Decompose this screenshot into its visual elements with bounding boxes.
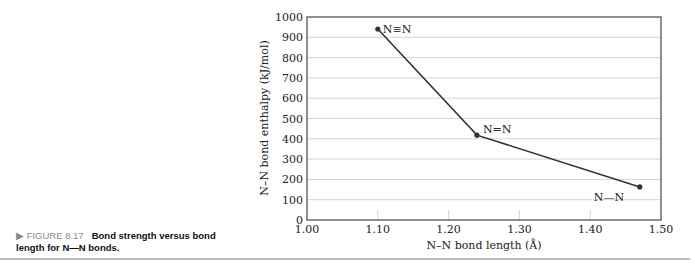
y-tick-label: 300 bbox=[282, 153, 303, 166]
x-tick-marks bbox=[378, 210, 590, 220]
gridlines bbox=[307, 37, 661, 199]
x-tick-label: 1.00 bbox=[295, 223, 320, 236]
data-point bbox=[474, 133, 479, 138]
data-point bbox=[637, 184, 642, 189]
point-label: N—N bbox=[594, 191, 625, 204]
x-axis-label: N–N bond length (Å) bbox=[426, 238, 541, 252]
point-label: N≡N bbox=[383, 23, 412, 36]
x-tick-label: 1.30 bbox=[507, 223, 532, 236]
x-tick-label: 1.50 bbox=[649, 223, 674, 236]
bond-chart: 01002003004005006007008009001000 1.001.1… bbox=[0, 0, 695, 258]
data-point bbox=[375, 26, 380, 31]
y-tick-label: 200 bbox=[282, 173, 303, 186]
series-line bbox=[378, 29, 640, 187]
y-tick-labels: 01002003004005006007008009001000 bbox=[275, 11, 303, 227]
y-tick-label: 700 bbox=[282, 72, 303, 85]
y-axis-label: N–N bond enthalpy (kJ/mol) bbox=[258, 40, 271, 195]
y-tick-label: 900 bbox=[282, 31, 303, 44]
y-tick-label: 400 bbox=[282, 133, 303, 146]
y-tick-label: 500 bbox=[282, 113, 303, 126]
y-tick-label: 1000 bbox=[275, 11, 303, 24]
x-tick-label: 1.20 bbox=[436, 223, 461, 236]
y-tick-label: 100 bbox=[282, 194, 303, 207]
point-label: N=N bbox=[483, 123, 512, 136]
x-tick-label: 1.40 bbox=[578, 223, 603, 236]
data-points: N≡NN=NN—N bbox=[375, 23, 642, 204]
figure-caption: ▶ FIGURE 8.17Bond strength versus bond l… bbox=[16, 230, 246, 254]
y-tick-label: 600 bbox=[282, 92, 303, 105]
x-tick-label: 1.10 bbox=[366, 223, 391, 236]
figure-label: ▶ FIGURE 8.17 bbox=[16, 230, 84, 241]
divider bbox=[0, 258, 690, 260]
x-tick-labels: 1.001.101.201.301.401.50 bbox=[295, 223, 674, 236]
y-tick-label: 800 bbox=[282, 52, 303, 65]
